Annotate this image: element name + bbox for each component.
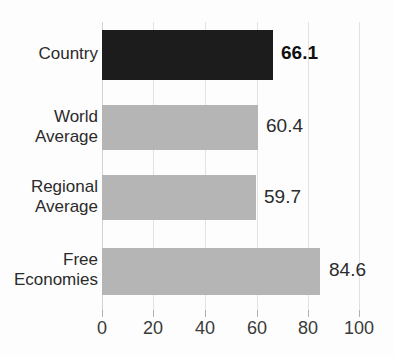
category-label-free-economies-line-2: Economies (0, 270, 98, 290)
value-label-free-economies: 84.6 (329, 259, 366, 281)
tick-mark-40 (205, 310, 206, 317)
bar-country (102, 30, 273, 80)
tick-label-0: 0 (97, 318, 107, 339)
bar-regional-average (102, 175, 256, 220)
category-label-country-line-1: Country (0, 44, 98, 64)
bar-chart-figure: Country World Average Regional Average F… (0, 0, 394, 356)
category-label-world-average: World Average (0, 107, 98, 147)
tick-mark-20 (153, 310, 154, 317)
plot-area (102, 22, 360, 310)
tick-mark-100 (359, 310, 360, 317)
category-label-regional-average-line-1: Regional (0, 177, 98, 197)
bar-free-economies (102, 248, 320, 295)
tick-label-100: 100 (344, 318, 374, 339)
value-label-regional-average: 59.7 (264, 186, 301, 208)
tick-label-20: 20 (143, 318, 163, 339)
tick-label-40: 40 (195, 318, 215, 339)
category-label-regional-average: Regional Average (0, 177, 98, 217)
bar-world-average (102, 105, 258, 150)
category-label-free-economies: Free Economies (0, 250, 98, 290)
chart-title (0, 0, 394, 5)
x-axis-labels: 0 20 40 60 80 100 (102, 318, 360, 344)
tick-label-60: 60 (247, 318, 267, 339)
tick-mark-0 (102, 310, 103, 317)
tick-mark-60 (257, 310, 258, 317)
category-label-free-economies-line-1: Free (0, 250, 98, 270)
tick-label-80: 80 (298, 318, 318, 339)
category-label-country: Country (0, 44, 98, 64)
tick-mark-80 (308, 310, 309, 317)
value-label-world-average: 60.4 (266, 115, 303, 137)
x-axis-ticks (102, 310, 360, 318)
value-label-country: 66.1 (281, 42, 318, 64)
category-label-regional-average-line-2: Average (0, 197, 98, 217)
category-label-world-average-line-1: World (0, 107, 98, 127)
category-label-world-average-line-2: Average (0, 127, 98, 147)
